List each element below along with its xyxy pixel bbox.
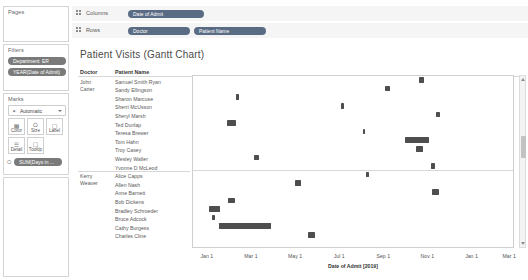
gantt-bar[interactable] <box>436 112 440 118</box>
columns-shelf-label: Columns <box>86 10 108 16</box>
patient-row-label: Charles Cline <box>115 233 146 239</box>
group-divider-labels <box>78 171 190 172</box>
x-axis-tick-label: Jan 1 <box>200 253 213 259</box>
x-axis-tick-label: Jul 1 <box>334 253 345 259</box>
left-panel-empty-area <box>3 177 69 277</box>
patient-row-label: Samuel Smith Ryan <box>115 79 161 85</box>
x-axis: Date of Admit [2019] Jan 1Mar 1May 1Jul … <box>192 248 514 280</box>
x-axis-tick-label: Jan 1 <box>465 253 478 259</box>
patient-row-label: Sharon Marcuse <box>115 96 153 102</box>
patient-row-label: Wesley Waller <box>115 156 148 162</box>
patient-row-label: Anne Barnett <box>115 190 145 196</box>
mark-type-dropdown[interactable]: ✦ Automatic <box>8 105 66 116</box>
gantt-bar[interactable] <box>308 232 314 238</box>
patient-row-label: Bruce Adcock <box>115 216 147 222</box>
gantt-bar[interactable] <box>227 120 236 126</box>
patient-row-label: Tom Hahn <box>115 139 139 145</box>
marks-label-button[interactable]: ▢ Label <box>46 118 63 135</box>
group-divider <box>193 170 513 171</box>
marks-color-label: Color <box>9 128 24 133</box>
patient-row-label: Sandy Ellingson <box>115 87 152 93</box>
x-axis-tick-label: May 1 <box>288 253 302 259</box>
size-encoding-icon: ⭘ <box>7 159 11 166</box>
mark-type-value: Automatic <box>20 108 42 114</box>
patient-row-label: Sherri McUsson <box>115 104 152 110</box>
marks-detail-label: Detail <box>9 147 24 152</box>
gantt-bar[interactable] <box>363 129 366 135</box>
marks-card-title: Marks <box>8 96 24 102</box>
gantt-bar[interactable] <box>236 94 239 100</box>
vertical-scrollbar[interactable] <box>519 75 526 248</box>
page-title: Patient Visits (Gantt Chart) <box>80 49 204 60</box>
x-axis-tick-label: Sep 1 <box>376 253 390 259</box>
columns-shelf[interactable]: Columns Date of Admit <box>72 6 528 21</box>
filter-pill-department[interactable]: Department: ER <box>8 57 66 65</box>
doctor-label: Carter <box>80 86 94 92</box>
gantt-bar[interactable] <box>432 189 439 195</box>
gantt-bar[interactable] <box>416 146 423 152</box>
patient-row-label: Yvonne D McLeod <box>115 165 157 171</box>
marks-card: Marks ✦ Automatic ▦ Color ⭘ Size ▢ Label… <box>3 93 69 175</box>
left-side-panel: Pages Filters Department: ER YEAR(Date o… <box>0 0 72 280</box>
rows-pill-doctor[interactable]: Doctor <box>128 27 190 35</box>
filters-card: Filters Department: ER YEAR(Date of Admi… <box>3 44 69 91</box>
columns-pill-date-of-admit[interactable]: Date of Admit <box>128 10 204 18</box>
gantt-bar[interactable] <box>212 215 215 221</box>
column-header-doctor: Doctor <box>80 69 97 75</box>
scroll-up-icon[interactable] <box>521 78 525 81</box>
patient-row-label: Bob Dickens <box>115 199 144 205</box>
patient-row-label: Troy Casey <box>115 147 141 153</box>
columns-grid-icon <box>76 10 82 16</box>
rows-shelf-label: Rows <box>86 27 100 33</box>
gantt-bar[interactable] <box>295 180 301 186</box>
gantt-bar[interactable] <box>219 223 272 229</box>
marks-tooltip-label: Tooltip <box>28 147 43 152</box>
gantt-bar[interactable] <box>366 172 369 178</box>
rows-pill-patient-name[interactable]: Patient Name <box>194 27 266 35</box>
patient-row-label: Sheryl Marsh <box>115 113 146 119</box>
gantt-bar[interactable] <box>341 103 344 109</box>
gantt-bar[interactable] <box>209 206 220 212</box>
column-header-patient-name: Patient Name <box>115 69 149 75</box>
patient-row-label: Alice Capps <box>115 173 143 179</box>
x-axis-title: Date of Admit [2019] <box>192 263 514 269</box>
rows-grid-icon <box>76 27 82 33</box>
vertical-scroll-thumb[interactable] <box>521 136 526 158</box>
doctor-label: Kerry <box>80 173 92 179</box>
marks-encoding-pill-sum-days-in[interactable]: SUM(Days in ... <box>14 158 62 166</box>
x-axis-tick-label: Mar 1 <box>244 253 257 259</box>
gantt-bar[interactable] <box>254 155 259 161</box>
filter-pill-year-date-of-admit[interactable]: YEAR(Date of Admit) <box>8 68 66 76</box>
marks-size-label: Size <box>28 128 43 133</box>
patient-row-label: Bradley Schroeder <box>115 208 158 214</box>
marks-tooltip-button[interactable]: ☐ Tooltip <box>27 137 44 154</box>
chevron-down-icon <box>58 110 62 112</box>
gantt-bar[interactable] <box>419 77 424 83</box>
gantt-bar[interactable] <box>405 137 429 143</box>
pages-card-title: Pages <box>8 9 24 15</box>
automatic-mark-icon: ✦ <box>12 108 16 114</box>
shelf-area: Columns Date of Admit Rows Doctor Patien… <box>72 0 528 42</box>
marks-size-button[interactable]: ⭘ Size <box>27 118 44 135</box>
worksheet-view: Patient Visits (Gantt Chart) Doctor Pati… <box>72 42 528 280</box>
pages-card: Pages <box>3 6 69 42</box>
marks-color-button[interactable]: ▦ Color <box>8 118 25 135</box>
tableau-worksheet-window: Pages Filters Department: ER YEAR(Date o… <box>0 0 528 280</box>
doctor-label: John <box>80 79 91 85</box>
gantt-bar[interactable] <box>385 86 390 92</box>
x-axis-tick-label: Mar 1 <box>503 253 516 259</box>
patient-row-label: Allen Nash <box>115 182 140 188</box>
patient-row-label: Teresa Brewer <box>115 130 148 136</box>
patient-row-label: Ted Dunlap <box>115 122 141 128</box>
marks-detail-button[interactable]: ☰ Detail <box>8 137 25 154</box>
gantt-plot-area[interactable] <box>192 75 514 248</box>
patient-row-label: Cathy Burgess <box>115 225 149 231</box>
marks-label-label: Label <box>47 128 62 133</box>
doctor-label: Weaver <box>80 180 98 186</box>
filters-card-title: Filters <box>8 47 24 53</box>
rows-shelf[interactable]: Rows Doctor Patient Name <box>72 23 528 38</box>
gantt-bar[interactable] <box>228 198 235 204</box>
gantt-bar[interactable] <box>431 163 435 169</box>
scroll-down-icon[interactable] <box>521 242 525 245</box>
x-axis-tick-label: Nov 1 <box>421 253 435 259</box>
